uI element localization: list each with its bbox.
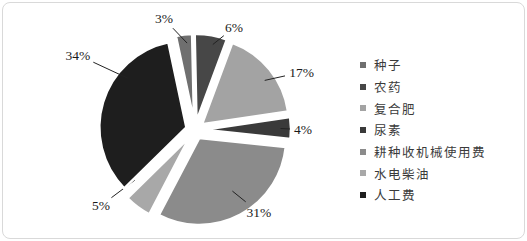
pie-percent-label-人工费: 34% <box>66 48 91 63</box>
pie-percent-label-尿素: 4% <box>294 122 312 137</box>
callout-line-4% <box>281 129 291 130</box>
legend-label: 水电柴油 <box>374 164 430 183</box>
legend-label: 种子 <box>374 55 402 74</box>
legend-label: 耕种收机械使用费 <box>374 142 486 161</box>
pie-percent-label-农药: 6% <box>225 20 243 35</box>
legend-swatch-icon <box>360 192 366 198</box>
legend-swatch-icon <box>360 127 366 133</box>
legend-item-尿素: 尿素 <box>360 119 486 141</box>
chart-legend: 种子农药复合肥尿素耕种收机械使用费水电柴油人工费 <box>360 54 486 206</box>
pie-percent-label-种子: 3% <box>155 11 173 26</box>
legend-swatch-icon <box>360 105 366 111</box>
legend-item-耕种收机械使用费: 耕种收机械使用费 <box>360 141 486 163</box>
legend-label: 人工费 <box>374 185 416 204</box>
legend-item-农药: 农药 <box>360 76 486 98</box>
legend-item-水电柴油: 水电柴油 <box>360 162 486 184</box>
legend-swatch-icon <box>360 170 366 176</box>
legend-label: 农药 <box>374 77 402 96</box>
pie-percent-label-水电柴油: 5% <box>92 198 110 213</box>
chart-card: 3%6%17%4%31%5%34% 种子农药复合肥尿素耕种收机械使用费水电柴油人… <box>2 2 525 239</box>
legend-item-人工费: 人工费 <box>360 184 486 206</box>
legend-label: 复合肥 <box>374 99 416 118</box>
legend-swatch-icon <box>360 62 366 68</box>
pie-percent-label-耕种收机械使用费: 31% <box>247 205 272 220</box>
legend-item-种子: 种子 <box>360 54 486 76</box>
legend-swatch-icon <box>360 84 366 90</box>
legend-swatch-icon <box>360 149 366 155</box>
pie-percent-label-复合肥: 17% <box>289 65 314 80</box>
legend-label: 尿素 <box>374 120 402 139</box>
legend-item-复合肥: 复合肥 <box>360 97 486 119</box>
